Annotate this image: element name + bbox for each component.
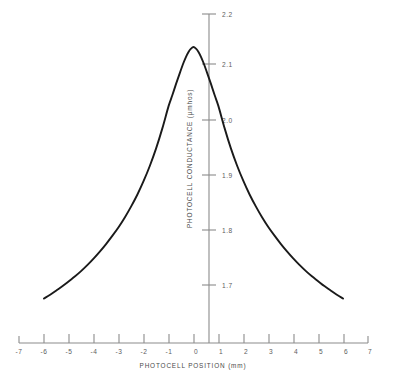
y-tick-label-1.8: 1.8	[222, 227, 233, 234]
x-tick-label-1: 1	[219, 348, 223, 355]
x-tick-label--7: -7	[16, 348, 23, 355]
x-axis-title: PHOTOCELL POSITION (mm)	[140, 362, 247, 370]
x-tick-label--2: -2	[141, 348, 148, 355]
y-tick-label-2.2: 2.2	[222, 11, 233, 18]
x-tick-label-7: 7	[368, 348, 372, 355]
chart-figure: 2.2 2.1 2.0 1.9 1.8 1.7 PHOTOCELL CONDUC…	[0, 0, 401, 376]
x-tick-label-5: 5	[319, 348, 323, 355]
y-tick-label-1.9: 1.9	[222, 172, 233, 179]
x-tick-label--5: -5	[66, 348, 73, 355]
x-tick-label-4: 4	[294, 348, 298, 355]
x-tick-label-6: 6	[344, 348, 348, 355]
x-tick-label-0: 0	[194, 348, 198, 355]
x-axis-tick-labels: -7 -6 -5 -4 -3 -2 -1 0 1 2 3 4 5 6 7	[16, 348, 373, 355]
x-tick-label--3: -3	[116, 348, 123, 355]
x-tick-label--1: -1	[166, 348, 173, 355]
photocell-conductance-chart: 2.2 2.1 2.0 1.9 1.8 1.7 PHOTOCELL CONDUC…	[0, 0, 401, 376]
x-tick-label--4: -4	[91, 348, 98, 355]
x-tick-label-2: 2	[244, 348, 248, 355]
y-tick-label-1.7: 1.7	[222, 282, 233, 289]
x-tick-label--6: -6	[41, 348, 48, 355]
y-axis-title: PHOTOCELL CONDUCTANCE (µmhos)	[186, 89, 194, 228]
x-tick-label-3: 3	[269, 348, 273, 355]
y-tick-label-2.1: 2.1	[222, 61, 233, 68]
